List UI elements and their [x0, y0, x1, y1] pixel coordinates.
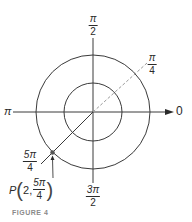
- label-3pi-over-2: 3π 2: [86, 185, 100, 208]
- label-pi-over-4: π 4: [148, 53, 157, 76]
- open-paren: (: [16, 180, 23, 200]
- label-zero: 0: [176, 106, 183, 117]
- label-pi-over-2: π 2: [89, 14, 98, 37]
- label-pi: π: [4, 106, 11, 117]
- figure-caption: FIGURE 4: [12, 209, 48, 216]
- ray-5pi-over-4: [41, 112, 93, 164]
- point-r: 2,: [23, 184, 32, 196]
- point-name: P: [9, 184, 16, 196]
- point-p-label: P ( 2, 5π 4 ): [9, 178, 53, 201]
- ray-pi-over-4-dashed: [93, 63, 147, 112]
- pointer-line: [53, 158, 54, 178]
- arrow-head-icon: [165, 109, 174, 115]
- label-5pi-over-4: 5π 4: [23, 150, 37, 173]
- point-theta: 5π 4: [33, 178, 45, 201]
- pointer-arrow-icon: [51, 156, 55, 161]
- point-p: [50, 150, 54, 154]
- close-paren: ): [46, 180, 53, 200]
